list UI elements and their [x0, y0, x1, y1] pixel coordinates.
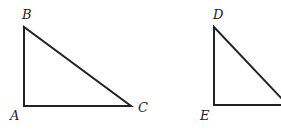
vertex-label-a: A [9, 108, 19, 123]
vertex-label-e: E [199, 108, 210, 123]
triangles-diagram: B A C D E [0, 0, 281, 130]
vertex-label-d: D [212, 7, 224, 22]
triangle-abc: B A C [9, 7, 148, 123]
triangle-def-shape [214, 27, 281, 118]
triangle-def: D E [199, 7, 281, 123]
vertex-label-b: B [21, 7, 32, 22]
triangle-abc-shape [24, 27, 131, 106]
vertex-label-c: C [138, 100, 148, 115]
